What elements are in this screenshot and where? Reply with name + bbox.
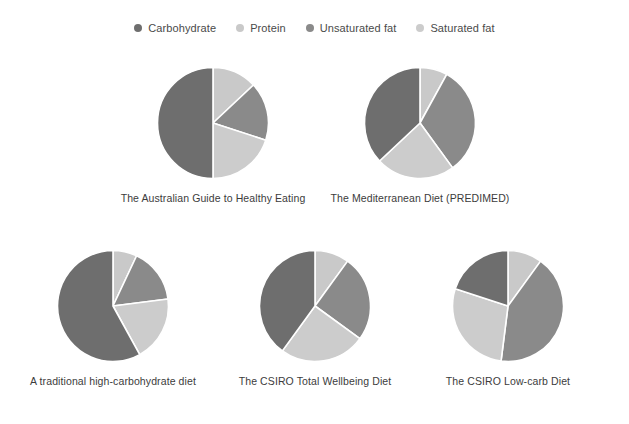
pie-chart-caption: The Mediterranean Diet (PREDIMED) xyxy=(325,192,515,204)
pie-svg xyxy=(452,250,564,362)
legend-item: Carbohydrate xyxy=(134,22,216,34)
pie-svg xyxy=(364,67,476,179)
pie-chart-cell: The Australian Guide to Healthy Eating xyxy=(118,67,308,204)
legend-item: Saturated fat xyxy=(416,22,494,34)
pie-chart-cell: The CSIRO Total Wellbeing Diet xyxy=(220,250,410,387)
legend-item-label: Saturated fat xyxy=(430,22,494,34)
pie-chart-csiro-low-carb xyxy=(452,250,564,362)
legend-dot-icon xyxy=(134,24,142,32)
legend-dot-icon xyxy=(236,24,244,32)
legend-item: Unsaturated fat xyxy=(306,22,397,34)
pie-chart-caption: A traditional high-carbohydrate diet xyxy=(18,375,208,387)
legend-item-label: Carbohydrate xyxy=(148,22,216,34)
pie-svg xyxy=(259,250,371,362)
pie-chart-caption: The CSIRO Low-carb Diet xyxy=(413,375,603,387)
pie-svg xyxy=(157,67,269,179)
pie-chart-mediterranean-diet xyxy=(364,67,476,179)
pie-chart-csiro-total-wellbeing xyxy=(259,250,371,362)
pie-chart-cell: The CSIRO Low-carb Diet xyxy=(413,250,603,387)
legend-dot-icon xyxy=(416,24,424,32)
pie-chart-traditional-high-carbohydrate xyxy=(57,250,169,362)
legend-dot-icon xyxy=(306,24,314,32)
pie-svg xyxy=(57,250,169,362)
chart-legend: Carbohydrate Protein Unsaturated fat Sat… xyxy=(0,22,629,34)
legend-item-label: Protein xyxy=(250,22,286,34)
pie-chart-caption: The CSIRO Total Wellbeing Diet xyxy=(220,375,410,387)
pie-chart-cell: A traditional high-carbohydrate diet xyxy=(18,250,208,387)
pie-slice xyxy=(158,68,214,179)
pie-chart-cell: The Mediterranean Diet (PREDIMED) xyxy=(325,67,515,204)
legend-item-label: Unsaturated fat xyxy=(320,22,397,34)
legend-item: Protein xyxy=(236,22,286,34)
pie-chart-caption: The Australian Guide to Healthy Eating xyxy=(118,192,308,204)
pie-chart-australian-guide xyxy=(157,67,269,179)
